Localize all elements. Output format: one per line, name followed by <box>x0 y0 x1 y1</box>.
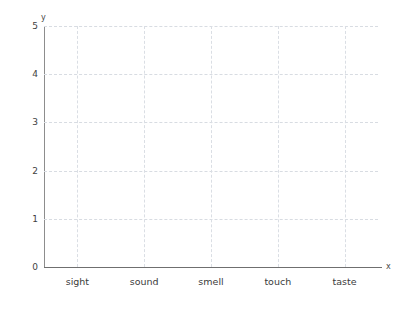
x-tick-label-taste: taste <box>333 276 357 287</box>
x-axis-label: x <box>386 262 391 271</box>
x-tick-label-sight: sight <box>66 276 89 287</box>
plot-area <box>44 26 378 267</box>
x-tick-label-touch: touch <box>264 276 291 287</box>
y-tick-label: 4 <box>16 69 38 79</box>
gridline-vertical <box>345 26 346 267</box>
y-tick-label: 0 <box>16 262 38 272</box>
gridline-vertical <box>278 26 279 267</box>
gridline-vertical <box>77 26 78 267</box>
x-tick-label-sound: sound <box>130 276 159 287</box>
x-tick-label-smell: smell <box>198 276 223 287</box>
y-tick-labels: 012345 <box>10 26 38 267</box>
y-tick-label: 2 <box>16 166 38 176</box>
y-tick-label: 5 <box>16 21 38 31</box>
y-tick-label: 3 <box>16 117 38 127</box>
chart-container: y x 012345 sightsoundsmelltouchtaste <box>0 0 419 310</box>
gridline-vertical <box>144 26 145 267</box>
gridline-vertical <box>211 26 212 267</box>
x-axis-line <box>44 267 382 268</box>
y-tick-label: 1 <box>16 214 38 224</box>
y-axis-label: y <box>41 13 46 22</box>
